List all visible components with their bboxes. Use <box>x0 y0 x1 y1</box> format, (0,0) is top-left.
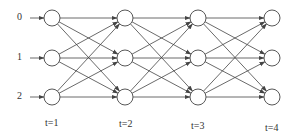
time-label-3: t=3 <box>191 121 204 131</box>
state-node-t4-s2 <box>264 89 280 105</box>
state-label-1: 1 <box>17 52 22 62</box>
state-node-t1-s1 <box>44 50 60 66</box>
state-node-t2-s2 <box>117 89 133 105</box>
transition-edges <box>30 18 267 97</box>
time-label-2: t=2 <box>119 119 132 129</box>
state-node-t4-s1 <box>264 50 280 66</box>
time-label-1: t=1 <box>45 118 58 128</box>
state-node-t1-s0 <box>44 10 60 26</box>
state-node-t2-s1 <box>117 50 133 66</box>
state-node-t3-s2 <box>190 89 206 105</box>
state-label-0: 0 <box>17 12 22 22</box>
trellis-diagram <box>0 0 298 135</box>
state-node-t2-s0 <box>117 10 133 26</box>
state-node-t4-s0 <box>264 10 280 26</box>
state-node-t3-s0 <box>190 10 206 26</box>
state-node-t3-s1 <box>190 50 206 66</box>
time-label-4: t=4 <box>265 123 278 133</box>
state-node-t1-s2 <box>44 89 60 105</box>
state-label-2: 2 <box>17 91 22 101</box>
